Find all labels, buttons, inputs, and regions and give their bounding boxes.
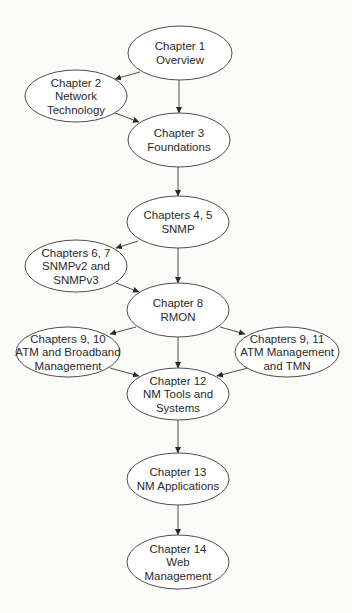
node-topic-label: Overview	[156, 54, 205, 66]
node-ch3: Chapter 3Foundations	[128, 113, 230, 167]
node-ch4_5: Chapters 4, 5SNMP	[127, 196, 229, 248]
node-chapter-label: Chapter 13	[150, 466, 207, 478]
node-topic-label: Foundations	[147, 141, 211, 153]
node-chapter-label: Chapter 1	[155, 40, 206, 52]
node-chapter-label: Chapter 12	[150, 375, 207, 387]
node-topic-label: Technology	[47, 104, 105, 116]
arrow-ch2-to-ch3	[115, 113, 139, 122]
node-topic-label: NM Applications	[137, 480, 220, 492]
arrow-ch8-to-ch9_10	[110, 327, 136, 334]
arrow-ch8-to-ch9_11	[220, 327, 245, 334]
node-topic-label: Management	[34, 360, 102, 372]
node-topic-label: Management	[144, 570, 212, 582]
arrow-ch4_5-to-ch6_7	[116, 241, 138, 248]
node-topic-label: ATM and Broadband	[15, 346, 120, 358]
node-ch9_10: Chapters 9, 10ATM and BroadbandManagemen…	[15, 327, 120, 377]
node-topic-label: Web	[166, 556, 189, 568]
node-ch13: Chapter 13NM Applications	[127, 453, 229, 505]
node-ch6_7: Chapters 6, 7SNMPv2 andSNMPv3	[25, 240, 127, 292]
node-chapter-label: Chapter 8	[153, 297, 204, 309]
node-ch1: Chapter 1Overview	[128, 26, 232, 80]
node-topic-label: Network	[55, 90, 97, 102]
node-ch12: Chapter 12NM Tools andSystems	[127, 368, 229, 420]
nodes-layer: Chapter 1OverviewChapter 2NetworkTechnol…	[15, 26, 339, 589]
chapter-dependency-diagram: Chapter 1OverviewChapter 2NetworkTechnol…	[0, 0, 352, 613]
node-topic-label: SNMPv2 and	[42, 260, 110, 272]
node-topic-label: SNMP	[161, 223, 195, 235]
node-chapter-label: Chapter 14	[150, 543, 208, 555]
node-chapter-label: Chapter 2	[51, 77, 102, 89]
node-ch2: Chapter 2NetworkTechnology	[25, 70, 127, 122]
node-topic-label: NM Tools and	[143, 388, 213, 400]
arrow-ch1-to-ch2	[115, 72, 140, 79]
node-ch8: Chapter 8RMON	[127, 283, 229, 337]
node-chapter-label: Chapters 6, 7	[41, 247, 110, 259]
node-topic-label: Systems	[156, 402, 200, 414]
node-topic-label: ATM Management	[240, 346, 335, 358]
node-ch14: Chapter 14WebManagement	[127, 535, 229, 589]
arrow-ch9_11-to-ch12	[217, 368, 248, 376]
node-chapter-label: Chapters 9, 10	[30, 333, 105, 345]
node-topic-label: and TMN	[263, 360, 310, 372]
node-chapter-label: Chapters 9, 11	[250, 333, 325, 345]
node-topic-label: RMON	[160, 311, 195, 323]
arrow-ch9_10-to-ch12	[110, 368, 139, 376]
node-topic-label: SNMPv3	[53, 274, 98, 286]
node-chapter-label: Chapter 3	[154, 127, 205, 139]
node-chapter-label: Chapters 4, 5	[143, 209, 212, 221]
arrow-ch6_7-to-ch8	[116, 283, 139, 292]
node-ch9_11: Chapters 9, 11ATM Managementand TMN	[235, 327, 339, 377]
